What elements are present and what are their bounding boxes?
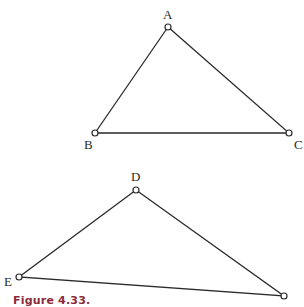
- triangle-abc: A B C: [84, 7, 303, 152]
- vertex-f: [281, 293, 287, 299]
- vertex-d: [133, 187, 139, 193]
- label-e: E: [4, 274, 12, 289]
- vertex-b: [92, 130, 98, 136]
- label-b: B: [84, 137, 93, 152]
- geometry-figure: A B C D E: [0, 0, 304, 307]
- triangle-abc-edges: [95, 27, 289, 133]
- vertex-e: [16, 274, 22, 280]
- triangle-def: D E: [4, 169, 287, 299]
- label-a: A: [163, 7, 173, 22]
- label-c: C: [294, 137, 303, 152]
- vertex-c: [286, 130, 292, 136]
- triangle-def-edges: [19, 190, 284, 296]
- figure-caption: Figure 4.33.: [13, 294, 90, 307]
- vertex-a: [165, 24, 171, 30]
- label-d: D: [131, 169, 140, 184]
